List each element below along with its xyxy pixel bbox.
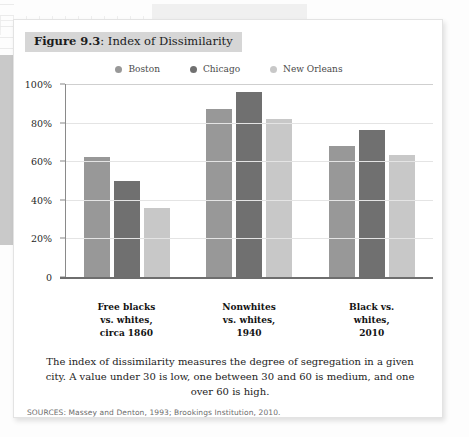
figure-sources: SOURCES: Massey and Denton, 1993; Brooki… xyxy=(27,408,437,417)
x-axis-category-label-line: Free blacks xyxy=(65,301,188,314)
chart-plot-wrapper: 100%80%60%40%20%0 xyxy=(14,84,444,299)
gridline xyxy=(66,238,433,239)
bar-group xyxy=(311,84,433,277)
legend-swatch-icon xyxy=(270,66,277,73)
bar-chicago[interactable] xyxy=(359,130,385,277)
y-axis-tick-label: 40% xyxy=(31,194,52,205)
figure-card: Figure 9.3: Index of Dissimilarity Bosto… xyxy=(13,19,443,418)
bar-chicago[interactable] xyxy=(114,181,140,278)
x-axis-category-label: Nonwhitesvs. whites,1940 xyxy=(188,301,311,340)
figure-title-banner: Figure 9.3: Index of Dissimilarity xyxy=(25,32,242,52)
x-axis-category-label-line: 2010 xyxy=(310,327,433,340)
legend-item-boston[interactable]: Boston xyxy=(115,64,159,74)
x-axis-category-label-line: 1940 xyxy=(188,327,311,340)
legend-label: Chicago xyxy=(203,64,240,74)
chart-legend: BostonChicagoNew Orleans xyxy=(14,64,444,74)
y-axis-tick-label: 60% xyxy=(31,156,52,167)
figure-title-separator: : xyxy=(100,34,108,48)
bar-group xyxy=(188,84,310,277)
legend-label: New Orleans xyxy=(283,64,342,74)
x-axis-baseline xyxy=(60,277,433,279)
bar-new-orleans[interactable] xyxy=(389,155,415,277)
bar-boston[interactable] xyxy=(329,146,355,277)
plot-area xyxy=(65,84,433,277)
bar-boston[interactable] xyxy=(84,157,110,277)
x-axis-category-label-line: vs. whites, xyxy=(188,314,311,327)
x-axis-category-label-line: circa 1860 xyxy=(65,327,188,340)
bar-chicago[interactable] xyxy=(236,92,262,277)
x-axis-category-label-line: Black vs. xyxy=(310,301,433,314)
x-axis-category-label: Black vs.whites,2010 xyxy=(310,301,433,340)
gridline xyxy=(66,123,433,124)
x-axis-category-label-line: Nonwhites xyxy=(188,301,311,314)
x-axis-category-labels: Free blacksvs. whites,circa 1860Nonwhite… xyxy=(65,301,433,340)
x-axis-category-label-line: vs. whites, xyxy=(65,314,188,327)
y-axis-tick-label: 100% xyxy=(25,79,52,90)
bar-new-orleans[interactable] xyxy=(266,119,292,277)
legend-swatch-icon xyxy=(115,66,122,73)
figure-number: Figure 9.3 xyxy=(34,34,100,48)
y-axis: 100%80%60%40%20%0 xyxy=(14,84,60,277)
bar-groups xyxy=(66,84,433,277)
x-axis-category-label-line: whites, xyxy=(310,314,433,327)
background-left-block xyxy=(0,55,14,245)
gridline xyxy=(66,84,433,85)
legend-item-chicago[interactable]: Chicago xyxy=(190,64,240,74)
y-axis-tick-label: 20% xyxy=(31,233,52,244)
gridline xyxy=(66,200,433,201)
legend-label: Boston xyxy=(128,64,159,74)
y-axis-tick-label: 80% xyxy=(31,117,52,128)
figure-caption: The index of dissimilarity measures the … xyxy=(44,354,416,399)
x-axis-category-label: Free blacksvs. whites,circa 1860 xyxy=(65,301,188,340)
bar-group xyxy=(66,84,188,277)
gridline xyxy=(66,161,433,162)
bar-boston[interactable] xyxy=(206,109,232,277)
y-axis-tick-label: 0 xyxy=(46,272,52,283)
legend-item-new-orleans[interactable]: New Orleans xyxy=(270,64,342,74)
bar-new-orleans[interactable] xyxy=(144,208,170,277)
figure-title: Index of Dissimilarity xyxy=(108,34,233,48)
legend-swatch-icon xyxy=(190,66,197,73)
